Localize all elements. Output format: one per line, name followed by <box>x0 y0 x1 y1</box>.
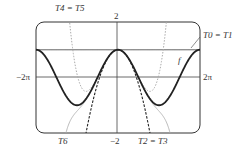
series-f-cos <box>36 50 200 106</box>
ytick-top: 2 <box>114 12 119 21</box>
ytick-bottom: −2 <box>110 137 120 146</box>
label-t4-t5: T4 = T5 <box>55 4 85 13</box>
label-t0-t1: T0 = T1 <box>203 31 233 40</box>
label-f: f <box>178 56 181 65</box>
xtick-left: −2π <box>16 73 30 82</box>
leader-t0t1 <box>191 37 200 48</box>
plot-frame <box>36 22 200 133</box>
xtick-right: 2π <box>203 73 212 82</box>
label-t2-t3: T2 = T3 <box>138 137 168 146</box>
label-t6: T6 <box>58 137 68 146</box>
